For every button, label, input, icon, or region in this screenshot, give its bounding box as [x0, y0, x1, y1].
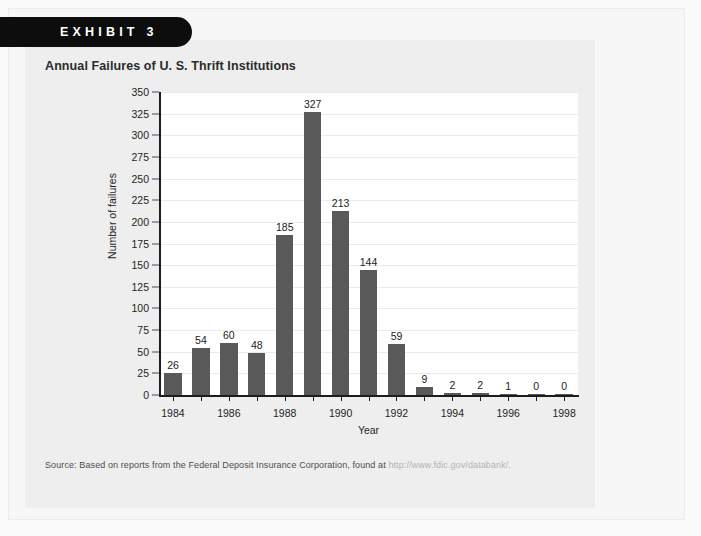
y-tick-label: 25 [137, 367, 149, 379]
bar-value-label: 60 [215, 329, 243, 341]
y-tick-label: 125 [131, 281, 149, 293]
source-url[interactable]: http://www.fdic.gov/databank/. [388, 460, 511, 470]
exhibit-page: EXHIBIT 3 Annual Failures of U. S. Thrif… [0, 0, 701, 536]
x-axis-title: Year [159, 424, 578, 436]
x-axis-line [159, 395, 579, 397]
y-tick-mark [152, 135, 159, 136]
y-tick-mark [152, 92, 159, 93]
y-tick-mark [152, 221, 159, 222]
y-tick-mark [152, 286, 159, 287]
plot-area: 2619845460198648185198832721319901445919… [159, 92, 578, 395]
y-tick-label: 0 [143, 389, 149, 401]
bar-slot: 21994 [438, 92, 466, 395]
bar-chart: Number of failures 350325300275250225200… [55, 92, 578, 437]
exhibit-banner: EXHIBIT 3 [0, 17, 192, 47]
bar-value-label: 327 [299, 98, 327, 110]
y-axis-line [159, 92, 161, 396]
bar-slot: 0 [522, 92, 550, 395]
bar-slot: 327 [299, 92, 327, 395]
y-tick-mark [152, 243, 159, 244]
bar-slot: 01998 [550, 92, 578, 395]
bar-value-label: 54 [187, 334, 215, 346]
source-text: Source: Based on reports from the Federa… [45, 460, 388, 470]
y-tick-label: 175 [131, 238, 149, 250]
y-tick-label: 250 [131, 173, 149, 185]
y-tick-mark [152, 395, 159, 396]
bar-slot: 9 [410, 92, 438, 395]
bar-value-label: 26 [159, 359, 187, 371]
y-axis-ticks: 3503253002752502252001751501251007550250 [77, 92, 159, 395]
y-tick-label: 350 [131, 86, 149, 98]
page-title: Annual Failures of U. S. Thrift Institut… [45, 59, 296, 73]
y-tick-mark [152, 308, 159, 309]
y-tick-label: 225 [131, 194, 149, 206]
bar-value-label: 185 [271, 221, 299, 233]
bar-slot: 2131990 [327, 92, 355, 395]
bar-value-label: 213 [327, 197, 355, 209]
source-note: Source: Based on reports from the Federa… [45, 460, 511, 470]
bar[interactable] [164, 373, 181, 396]
bar[interactable] [276, 235, 293, 395]
y-tick-label: 325 [131, 108, 149, 120]
bar-value-label: 2 [466, 379, 494, 391]
exhibit-banner-label: EXHIBIT 3 [60, 25, 158, 39]
y-tick-mark [152, 156, 159, 157]
bar[interactable] [416, 387, 433, 395]
bar[interactable] [220, 343, 237, 395]
y-tick-mark [152, 330, 159, 331]
y-tick-mark [152, 351, 159, 352]
bar[interactable] [332, 211, 349, 395]
bar-slot: 144 [355, 92, 383, 395]
y-tick-label: 50 [137, 346, 149, 358]
y-tick-mark [152, 373, 159, 374]
bar-value-label: 9 [410, 373, 438, 385]
bar-series: 2619845460198648185198832721319901445919… [159, 92, 578, 395]
y-tick-mark [152, 178, 159, 179]
bar[interactable] [388, 344, 405, 395]
bar[interactable] [304, 112, 321, 395]
bar[interactable] [248, 353, 265, 395]
bar-slot: 11996 [494, 92, 522, 395]
bar-slot: 2 [466, 92, 494, 395]
bar-value-label: 144 [355, 256, 383, 268]
y-tick-mark [152, 113, 159, 114]
bar-value-label: 0 [550, 380, 578, 392]
bar-slot: 601986 [215, 92, 243, 395]
bar-value-label: 59 [383, 330, 411, 342]
y-tick-mark [152, 200, 159, 201]
bar-value-label: 48 [243, 339, 271, 351]
bar-value-label: 0 [522, 380, 550, 392]
y-tick-label: 200 [131, 216, 149, 228]
y-tick-label: 75 [137, 324, 149, 336]
y-tick-label: 300 [131, 129, 149, 141]
bar-slot: 261984 [159, 92, 187, 395]
y-tick-label: 275 [131, 151, 149, 163]
y-tick-label: 100 [131, 302, 149, 314]
bar-slot: 48 [243, 92, 271, 395]
bar-value-label: 2 [438, 379, 466, 391]
y-tick-label: 150 [131, 259, 149, 271]
bar-slot: 1851988 [271, 92, 299, 395]
x-tick-label: 1998 [522, 407, 606, 419]
y-tick-mark [152, 265, 159, 266]
exhibit-panel: EXHIBIT 3 Annual Failures of U. S. Thrif… [25, 40, 595, 508]
bar-slot: 591992 [383, 92, 411, 395]
bar[interactable] [192, 348, 209, 395]
bar-value-label: 1 [494, 380, 522, 392]
bar-slot: 54 [187, 92, 215, 395]
bar[interactable] [360, 270, 377, 395]
